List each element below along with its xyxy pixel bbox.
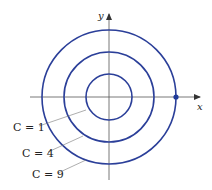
label-c4: C = 4 xyxy=(22,147,54,160)
marked-point xyxy=(173,94,178,99)
label-c9: C = 9 xyxy=(32,168,64,181)
label-c1: C = 1 xyxy=(13,121,45,134)
y-axis-label: y xyxy=(97,10,104,21)
x-axis-label: x xyxy=(197,101,203,112)
level-curves-diagram: x y C = 1 C = 4 C = 9 xyxy=(0,0,212,190)
